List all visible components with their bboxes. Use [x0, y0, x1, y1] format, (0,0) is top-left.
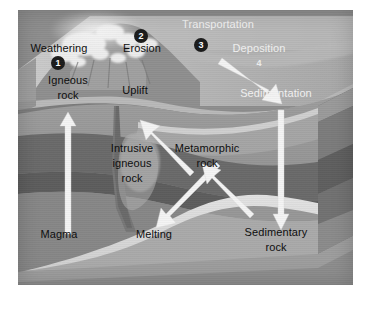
- label-sedimentary-line2: rock: [234, 241, 318, 253]
- label-transportation: Transportation: [170, 18, 266, 30]
- label-deposition: Deposition: [223, 42, 295, 54]
- label-metamorphic-line2: rock: [168, 157, 246, 169]
- block-diagram: Weathering 1 Erosion 2 Transportation 3 …: [18, 10, 353, 285]
- label-intrusive-line3: rock: [102, 172, 162, 184]
- step-number-4: 4: [252, 56, 266, 70]
- step-number-2: 2: [134, 29, 148, 43]
- label-intrusive-line2: igneous: [102, 157, 162, 169]
- label-intrusive-line1: Intrusive: [102, 142, 162, 154]
- label-sedimentation: Sedimentation: [230, 87, 322, 99]
- label-magma: Magma: [32, 228, 86, 240]
- label-igneous-rock-line2: rock: [34, 89, 102, 101]
- step-number-3: 3: [194, 38, 208, 52]
- label-uplift: Uplift: [112, 84, 158, 96]
- rock-cycle-figure: Weathering 1 Erosion 2 Transportation 3 …: [0, 0, 370, 309]
- label-weathering: Weathering: [22, 42, 96, 54]
- step-number-1: 1: [51, 56, 65, 70]
- label-igneous-rock-line1: Igneous: [34, 74, 102, 86]
- label-erosion: Erosion: [113, 42, 171, 54]
- label-melting: Melting: [126, 228, 182, 240]
- label-metamorphic-line1: Metamorphic: [168, 142, 246, 154]
- label-sedimentary-line1: Sedimentary: [234, 226, 318, 238]
